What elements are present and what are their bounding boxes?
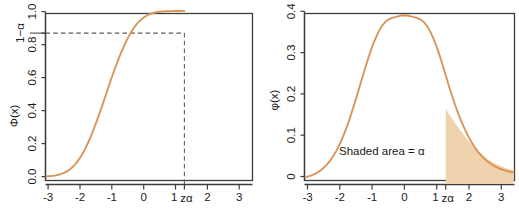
left-x-tick-label-minus3: -3	[43, 191, 53, 203]
right-y-axis-title: φ(x)	[268, 89, 280, 110]
right-x-tick-label-minus1: -1	[367, 191, 377, 203]
right-x-tick-label-0: 0	[401, 191, 407, 203]
right-y-tick-label-1: 0.1	[285, 127, 297, 143]
shaded-area-annotation: Shaded area = α	[339, 145, 425, 157]
left-x-tick-label-2: 2	[204, 191, 210, 203]
left-x-tick-marks	[48, 185, 239, 190]
right-x-tick-label-3: 3	[498, 191, 504, 203]
right-x-tick-label-z-alpha: zα	[442, 192, 455, 204]
right-x-tick-label-minus3: -3	[302, 191, 312, 203]
left-y-tick-label-3: 0.6	[26, 70, 38, 86]
right-x-tick-marks	[308, 185, 502, 190]
left-y-tick-label-0: 0.0	[26, 169, 38, 185]
left-x-tick-label-z-alpha: zα	[180, 192, 193, 204]
right-y-tick-label-2: 0.2	[285, 86, 297, 102]
left-y-tick-label-4: 0.8	[26, 37, 38, 53]
right-panel-svg: 0 0.1 0.2 0.3 0.4 φ(x) -3 -2 -1 0 1	[258, 0, 519, 211]
right-x-tick-label-2: 2	[466, 191, 472, 203]
two-panel-normal-distribution-figure: 0.0 0.2 0.4 0.6 0.8 1.0 1−α Φ(x) -3 -	[0, 0, 519, 211]
right-y-tick-label-3: 0.3	[285, 45, 297, 61]
left-x-tick-label-1: 1	[171, 191, 177, 203]
right-x-tick-label-1: 1	[432, 191, 438, 203]
left-y-tick-label-2: 0.4	[26, 102, 38, 119]
right-x-tick-label-minus2: -2	[335, 191, 345, 203]
right-y-tick-label-4: 0.4	[285, 3, 297, 20]
left-y-tick-label-1: 0.2	[26, 136, 38, 152]
cdf-curve	[47, 11, 185, 177]
left-x-tick-label-0: 0	[140, 191, 146, 203]
left-panel-cdf-chart: 0.0 0.2 0.4 0.6 0.8 1.0 1−α Φ(x) -3 -	[0, 0, 262, 211]
left-x-tick-label-minus1: -1	[107, 191, 117, 203]
left-x-tick-label-minus2: -2	[75, 191, 85, 203]
left-x-tick-label-3: 3	[236, 191, 242, 203]
left-y-tick-label-one-minus-alpha: 1−α	[14, 23, 26, 43]
left-panel-svg: 0.0 0.2 0.4 0.6 0.8 1.0 1−α Φ(x) -3 -	[0, 0, 262, 211]
left-plot-frame	[46, 14, 253, 181]
right-y-tick-label-0: 0	[285, 173, 297, 179]
left-y-tick-label-5: 1.0	[26, 4, 38, 20]
shaded-alpha-region	[446, 109, 514, 184]
left-y-axis-title: Φ(x)	[8, 105, 20, 128]
right-panel-pdf-chart: 0 0.1 0.2 0.3 0.4 φ(x) -3 -2 -1 0 1	[258, 0, 519, 211]
